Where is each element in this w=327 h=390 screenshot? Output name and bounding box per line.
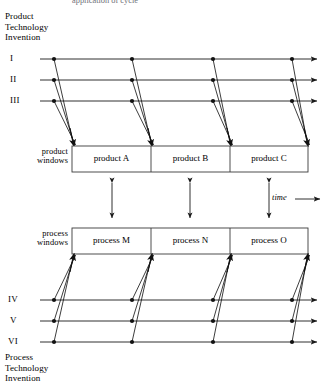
process-invention-flow-lines: [54, 255, 310, 342]
row-label-IV: IV: [8, 294, 18, 305]
bottom-title-line-2: Technology: [5, 363, 48, 374]
row-label-VI: VI: [8, 336, 18, 347]
bottom-title-line-3: Invention: [5, 373, 48, 384]
row-label-II: II: [10, 74, 17, 85]
coupling-arrows: [112, 183, 269, 218]
product-windows-label-line-2: windows: [20, 156, 68, 165]
process-flow-arrowheads: [70, 254, 308, 273]
row-label-V: V: [10, 315, 17, 326]
row-label-I: I: [10, 53, 13, 64]
title-line-2: Technology: [5, 22, 48, 33]
time-axis-label: time: [272, 193, 287, 204]
process-window-cell-n[interactable]: process N: [151, 235, 230, 245]
process-window-cell-o[interactable]: process O: [230, 235, 308, 245]
product-window-cell-c[interactable]: product C: [230, 153, 308, 163]
figure-root: application of cycle Product Technology …: [0, 0, 327, 390]
product-windows-label-line-1: product: [20, 147, 68, 156]
process-window-cell-m[interactable]: process M: [72, 235, 151, 245]
process-technology-invention-title: Process Technology Invention: [5, 352, 48, 384]
top-timelines-group: [40, 59, 317, 101]
bottom-timelines-group: [40, 300, 317, 342]
title-line-1: Product: [5, 11, 48, 22]
product-technology-invention-title: Product Technology Invention: [5, 11, 48, 43]
product-window-cell-a[interactable]: product A: [72, 153, 151, 163]
row-label-III: III: [10, 95, 20, 106]
figure-top-caption: application of cycle: [72, 0, 138, 5]
product-invention-flow-lines: [54, 59, 310, 145]
product-window-cell-b[interactable]: product B: [151, 153, 230, 163]
process-windows-label-line-2: windows: [20, 238, 68, 247]
title-line-3: Invention: [5, 32, 48, 43]
process-windows-label-line-1: process: [20, 229, 68, 238]
product-windows-label: product windows: [20, 147, 68, 166]
product-flow-arrowheads: [70, 128, 308, 147]
process-windows-label: process windows: [20, 229, 68, 248]
bottom-title-line-1: Process: [5, 352, 48, 363]
